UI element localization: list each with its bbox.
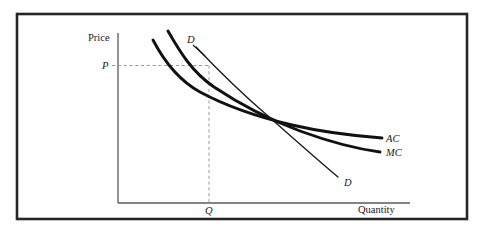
demand-top-label: D [186, 34, 195, 45]
marginal-cost-label: MC [385, 147, 403, 158]
price-tick-label: P [101, 60, 109, 71]
average-cost-label: AC [385, 133, 400, 144]
demand-bottom-label: D [343, 177, 352, 188]
quantity-tick-label: Q [205, 205, 213, 216]
diagram-canvas: Price Quantity P Q D D AC MC [0, 0, 492, 236]
y-axis-title: Price [88, 32, 110, 43]
x-axis-title: Quantity [358, 204, 395, 215]
economics-diagram-figure: Price Quantity P Q D D AC MC [0, 0, 492, 236]
figure-border [17, 14, 467, 219]
